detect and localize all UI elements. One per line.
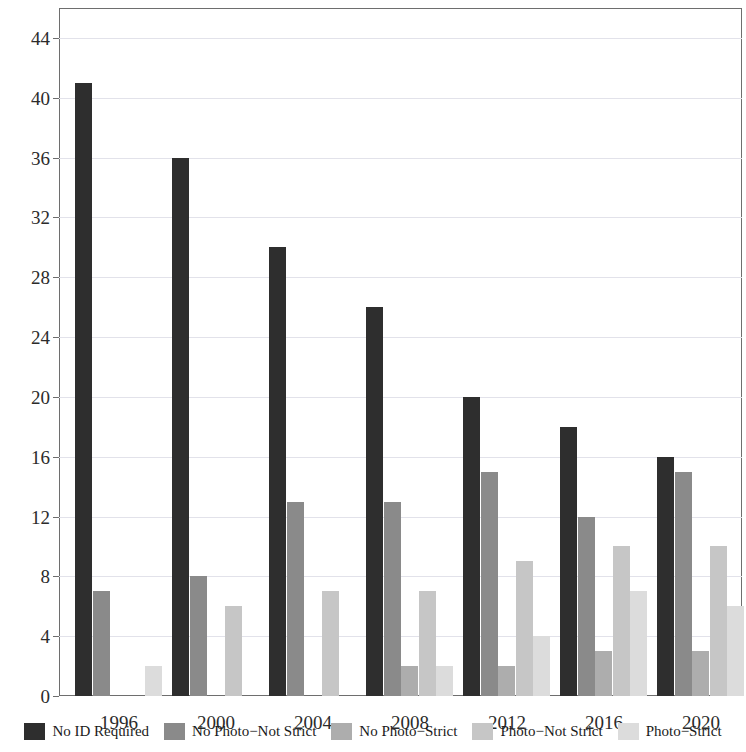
legend-item[interactable]: No Photo−Not Strict (164, 723, 316, 740)
y-tick-label: 16 (31, 447, 50, 466)
legend-swatch-icon (164, 723, 185, 740)
y-tick-label: 28 (31, 268, 50, 287)
legend-swatch-icon (331, 723, 352, 740)
legend-label: No Photo−Not Strict (192, 724, 316, 739)
y-tick-label: 8 (41, 567, 51, 586)
y-tick-label: 4 (41, 627, 51, 646)
y-tick-label: 12 (31, 507, 50, 526)
y-tick-label: 0 (41, 687, 51, 706)
y-tick-label: 20 (31, 387, 50, 406)
y-tick-label: 32 (31, 208, 50, 227)
legend-swatch-icon (618, 723, 639, 740)
y-tick-label: 36 (31, 148, 50, 167)
y-tick-label: 24 (31, 328, 50, 347)
legend-item[interactable]: No Photo−Strict (331, 723, 457, 740)
legend-item[interactable]: Photo−Not Strict (472, 723, 602, 740)
legend-label: No Photo−Strict (359, 724, 457, 739)
y-tick-label: 40 (31, 88, 50, 107)
legend-swatch-icon (472, 723, 493, 740)
y-tick-mark (53, 696, 59, 697)
legend-label: No ID Required (52, 724, 149, 739)
legend-label: Photo−Not Strict (500, 724, 602, 739)
x-axis: 1996200020042008201220162020 (59, 8, 742, 696)
y-tick-label: 44 (31, 28, 50, 47)
legend-item[interactable]: No ID Required (24, 723, 149, 740)
chart-root: 048121620242832364044 199620002004200820… (0, 0, 746, 752)
chart-legend: No ID RequiredNo Photo−Not StrictNo Phot… (0, 723, 746, 740)
legend-swatch-icon (24, 723, 45, 740)
legend-label: Photo−Strict (646, 724, 722, 739)
legend-item[interactable]: Photo−Strict (618, 723, 722, 740)
